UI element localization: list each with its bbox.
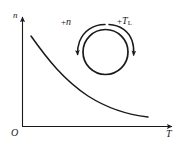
x-axis-label: T xyxy=(166,129,172,139)
characteristic-curve xyxy=(31,36,148,117)
origin-label: O xyxy=(11,128,18,138)
torque-subscript: L xyxy=(128,19,132,27)
speed-symbol: n xyxy=(66,16,71,27)
load-torque-direction-label: +TL xyxy=(117,16,132,27)
motor-characteristic-figure: n T O +n +TL xyxy=(0,0,185,147)
speed-direction-label: +n xyxy=(61,17,71,27)
diagram-canvas xyxy=(0,0,185,147)
rotor-circle xyxy=(83,30,128,75)
load-torque-direction-arc xyxy=(109,25,134,56)
speed-direction-arc xyxy=(78,25,105,55)
y-axis-label: n xyxy=(13,11,18,20)
